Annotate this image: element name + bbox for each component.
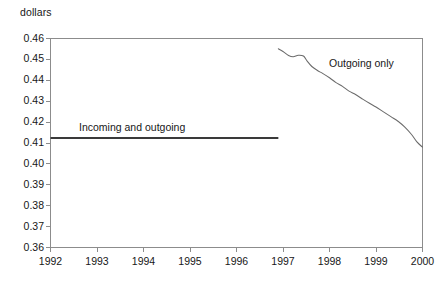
chart-container: dollars 0.460.450.440.430.420.410.400.39… [0,0,446,283]
y-axis-tick-label: 0.45 [10,52,44,64]
series-label: Incoming and outgoing [79,121,185,133]
y-axis-tick-label: 0.36 [10,241,44,253]
x-axis-tick-label: 1996 [215,255,259,267]
x-axis-tick-label: 1999 [354,255,398,267]
x-axis-tick-label: 1998 [308,255,352,267]
x-axis-tick-label: 2000 [401,255,445,267]
x-axis-tick-label: 1997 [261,255,305,267]
chart-axes [51,39,423,248]
y-axis-tick-label: 0.43 [10,94,44,106]
y-axis-tick-label: 0.46 [10,32,44,44]
chart-plot-svg [0,0,446,283]
y-axis-tick-label: 0.39 [10,178,44,190]
chart-tick-marks [46,39,423,253]
series-label: Outgoing only [329,57,394,69]
y-axis-tick-label: 0.40 [10,157,44,169]
y-axis-tick-label: 0.38 [10,199,44,211]
y-axis-tick-label: 0.42 [10,115,44,127]
y-axis-tick-label: 0.44 [10,73,44,85]
x-axis-tick-label: 1992 [29,255,73,267]
y-axis-tick-label: 0.41 [10,136,44,148]
y-axis-tick-label: 0.37 [10,220,44,232]
x-axis-tick-label: 1994 [122,255,166,267]
x-axis-tick-label: 1993 [75,255,119,267]
x-axis-tick-label: 1995 [168,255,212,267]
